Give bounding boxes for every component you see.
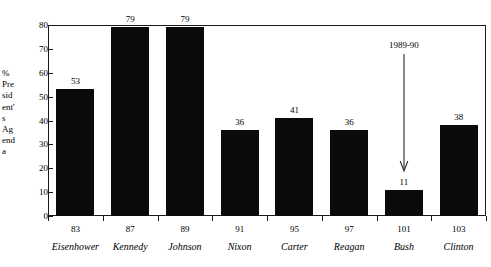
- y-tick-label: 70: [20, 44, 48, 54]
- y-tick-mark: [48, 192, 53, 193]
- y-tick-label: 20: [20, 163, 48, 173]
- y-tick-label: 60: [20, 68, 48, 78]
- bar: [56, 89, 94, 216]
- x-tick-mark: [158, 216, 159, 221]
- x-tick-mark: [48, 216, 49, 221]
- x-tick-label: 83: [48, 224, 102, 234]
- bar: [385, 190, 423, 216]
- x-tick-label: 91: [213, 224, 267, 234]
- y-tick-mark: [48, 121, 53, 122]
- y-tick-label: 10: [20, 187, 48, 197]
- bar: [221, 130, 259, 216]
- x-tick-label: 87: [103, 224, 157, 234]
- bar: [166, 27, 204, 216]
- y-tick-label: 0: [20, 211, 48, 221]
- x-tick-label: 89: [158, 224, 212, 234]
- bar-chart: % Pre sid ent' s Ag end a 01020304050607…: [0, 0, 491, 267]
- x-category-name: Clinton: [425, 241, 491, 252]
- bar: [330, 130, 368, 216]
- bar: [111, 27, 149, 216]
- x-tick-mark: [486, 216, 487, 221]
- y-tick-mark: [48, 73, 53, 74]
- x-tick-mark: [377, 216, 378, 221]
- bar-value-label: 79: [110, 14, 150, 24]
- y-tick-label: 40: [20, 116, 48, 126]
- y-tick-mark: [48, 97, 53, 98]
- bar-value-label: 79: [165, 14, 205, 24]
- x-tick-mark: [103, 216, 104, 221]
- x-tick-label: 95: [267, 224, 321, 234]
- bar-value-label: 36: [329, 117, 369, 127]
- bar: [275, 118, 313, 216]
- x-tick-mark: [212, 216, 213, 221]
- x-tick-mark: [431, 216, 432, 221]
- y-tick-mark: [48, 144, 53, 145]
- x-tick-mark: [322, 216, 323, 221]
- x-tick-label: 97: [322, 224, 376, 234]
- annotation-arrow-icon: [394, 54, 414, 179]
- x-tick-label: 103: [432, 224, 486, 234]
- y-tick-mark: [48, 49, 53, 50]
- x-tick-mark: [267, 216, 268, 221]
- x-tick-label: 101: [377, 224, 431, 234]
- y-tick-label: 80: [20, 20, 48, 30]
- annotation-label: 1989-90: [364, 40, 444, 50]
- y-tick-label: 30: [20, 139, 48, 149]
- bar-value-label: 38: [439, 112, 479, 122]
- y-tick-mark: [48, 168, 53, 169]
- bar-value-label: 36: [220, 117, 260, 127]
- bar-value-label: 41: [274, 105, 314, 115]
- y-tick-label: 50: [20, 92, 48, 102]
- bar: [440, 125, 478, 216]
- bar-value-label: 53: [55, 76, 95, 86]
